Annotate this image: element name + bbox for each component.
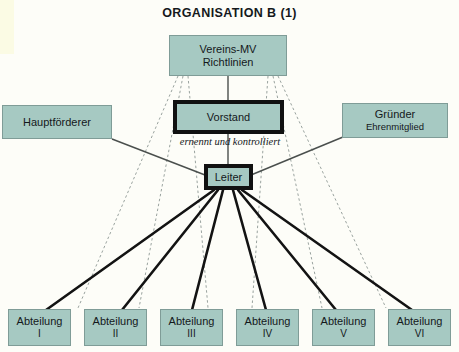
node-abteilung-2-label: Abteilung <box>93 315 139 328</box>
node-vereins-mv[interactable]: Vereins-MV Richtlinien <box>169 35 287 76</box>
node-abteilung-6-numeral: VI <box>415 328 424 340</box>
node-abteilung-4[interactable]: Abteilung IV <box>236 309 299 346</box>
node-vorstand[interactable]: Vorstand <box>173 100 284 134</box>
node-abteilung-1-numeral: I <box>38 328 41 340</box>
node-abteilung-1-label: Abteilung <box>17 315 63 328</box>
node-hauptfoerderer-label: Hauptförderer <box>23 116 91 129</box>
node-abteilung-3-numeral: III <box>187 328 195 340</box>
node-hauptfoerderer[interactable]: Hauptförderer <box>2 105 112 139</box>
node-gruender[interactable]: Gründer Ehrenmitglied <box>342 103 448 138</box>
link-leiter-abteilung-4 <box>233 190 266 310</box>
node-abteilung-4-label: Abteilung <box>245 315 291 328</box>
node-abteilung-5[interactable]: Abteilung V <box>312 309 375 346</box>
node-abteilung-6-label: Abteilung <box>397 315 443 328</box>
link-leiter-abteilung-1 <box>46 190 214 310</box>
link-leiter-abteilung-2 <box>122 190 218 310</box>
node-abteilung-3-label: Abteilung <box>169 315 215 328</box>
node-abteilung-6[interactable]: Abteilung VI <box>388 309 451 346</box>
link-leiter-abteilung-6 <box>242 190 412 310</box>
link-leiter-abteilung-3 <box>192 190 223 310</box>
thick-solid-link-group <box>46 190 412 310</box>
node-vereins-mv-label-2: Richtlinien <box>203 56 254 69</box>
node-vorstand-label: Vorstand <box>207 111 250 124</box>
node-abteilung-2[interactable]: Abteilung II <box>84 309 147 346</box>
node-abteilung-5-label: Abteilung <box>321 315 367 328</box>
organisation-chart-page: ORGANISATION B (1) Vere <box>0 0 459 352</box>
node-abteilung-4-numeral: IV <box>263 328 272 340</box>
node-gruender-label-2: Ehrenmitglied <box>366 121 424 132</box>
node-abteilung-2-numeral: II <box>113 328 119 340</box>
caption-ernennt-und-kontrolliert: ernennt und kontrolliert <box>155 136 305 147</box>
node-gruender-label-1: Gründer <box>375 108 415 121</box>
node-abteilung-1[interactable]: Abteilung I <box>8 309 71 346</box>
node-vereins-mv-label-1: Vereins-MV <box>200 43 257 56</box>
node-abteilung-3[interactable]: Abteilung III <box>160 309 223 346</box>
node-leiter[interactable]: Leiter <box>204 164 253 190</box>
node-abteilung-5-numeral: V <box>340 328 347 340</box>
node-leiter-label: Leiter <box>215 171 243 184</box>
